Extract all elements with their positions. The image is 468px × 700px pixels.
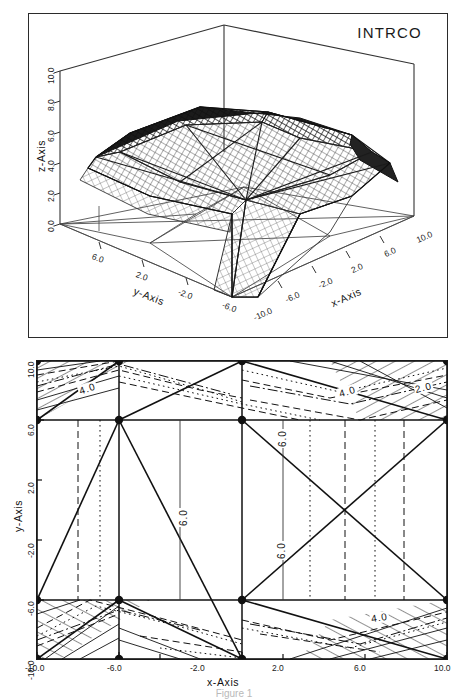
contour-x-tick-2: 2.0 <box>272 663 284 673</box>
figure-intrco: INTRCO <box>0 0 468 700</box>
contour-x-tick-neg6: -6.0 <box>107 663 122 673</box>
contour-y-axis-label: y-Axis <box>12 500 24 532</box>
contour-x-tick-neg10: -10.0 <box>25 663 44 673</box>
z-tick-1: 2.0 <box>46 190 56 202</box>
z-tick-5: 10.0 <box>46 67 56 84</box>
contour-y-tick-6: 6.0 <box>26 424 36 436</box>
contour-y-tick-10: 10.0 <box>26 361 36 378</box>
surface-panel-frame <box>28 13 448 338</box>
page-title: INTRCO <box>357 24 422 41</box>
contour-y-tick-neg2: -2.0 <box>26 543 36 558</box>
figure-caption: Figure 1 <box>0 688 468 699</box>
z-tick-2: 4.0 <box>46 160 56 172</box>
contour-x-tick-6: 6.0 <box>354 663 366 673</box>
contour-label-3: 6.0 <box>277 429 288 448</box>
contour-x-tick-neg2: -2.0 <box>190 663 205 673</box>
contour-y-tick-neg6: -6.0 <box>26 601 36 616</box>
z-tick-4: 8.0 <box>46 99 56 111</box>
contour-label-6: 6.0 <box>276 541 287 560</box>
contour-y-tick-2: 2.0 <box>26 482 36 494</box>
contour-x-axis-label: x-Axis <box>207 676 239 688</box>
z-tick-3: 6.0 <box>46 130 56 142</box>
contour-label-4: 6.0 <box>178 508 189 527</box>
contour-x-tick-10: 10.0 <box>434 663 451 673</box>
z-tick-0: 0.0 <box>46 220 56 232</box>
